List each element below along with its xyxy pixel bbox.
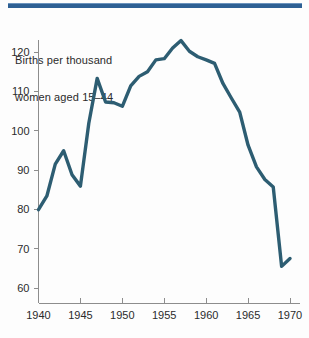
y-tick-label: 80: [17, 203, 29, 215]
y-tick-label: 90: [17, 164, 29, 176]
y-tick-label: 110: [12, 85, 30, 97]
x-tick-label: 1945: [68, 309, 92, 321]
x-tick-label: 1950: [110, 309, 134, 321]
y-axis-ticks: 60708090100110120: [11, 46, 38, 294]
x-tick-label: 1955: [152, 309, 176, 321]
x-tick-label: 1965: [236, 309, 260, 321]
line-chart-plot: 60708090100110120 1940194519501955196019…: [0, 0, 309, 338]
y-tick-label: 120: [11, 46, 29, 58]
x-axis-ticks: 1940194519501955196019651970: [26, 298, 302, 321]
y-tick-label: 60: [17, 282, 29, 294]
y-tick-label: 100: [11, 125, 29, 137]
x-tick-label: 1970: [278, 309, 302, 321]
y-tick-label: 70: [17, 243, 29, 255]
data-series-line: [39, 41, 291, 267]
x-tick-label: 1940: [26, 309, 50, 321]
x-tick-label: 1960: [194, 309, 218, 321]
chart-figure: Births per thousand women aged 15–44 Bir…: [0, 0, 309, 338]
